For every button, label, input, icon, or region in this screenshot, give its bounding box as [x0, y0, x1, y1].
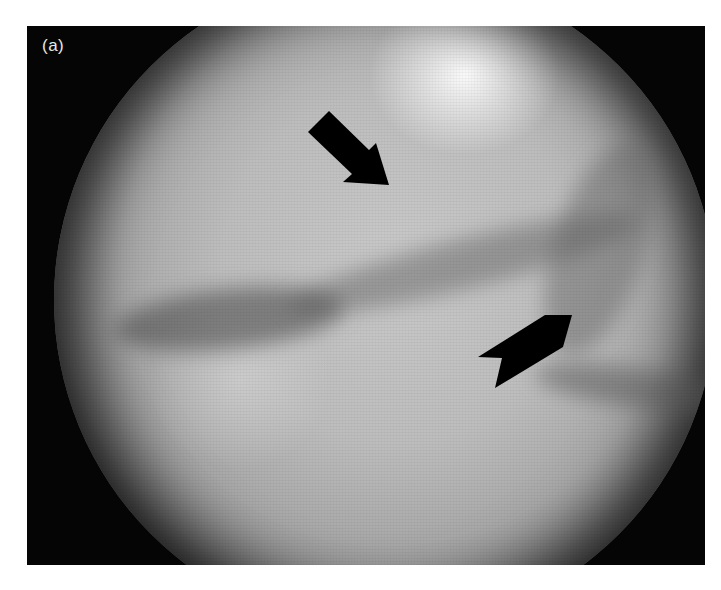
arrow-up-right-icon	[475, 312, 577, 390]
circular-view-field	[54, 26, 705, 565]
arrow-down-right-icon	[305, 108, 395, 190]
image-frame	[27, 26, 705, 565]
panel-label: (a)	[42, 36, 64, 56]
figure-page: (a)	[0, 0, 721, 590]
